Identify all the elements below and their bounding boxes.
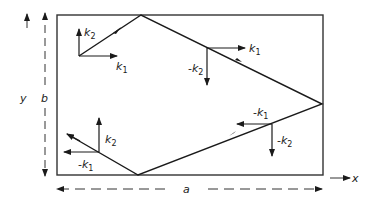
ray-direction-arrow xyxy=(113,27,121,34)
k1-label-top-left: k1 xyxy=(116,60,127,75)
a-label: a xyxy=(183,183,190,196)
vector-set-upper-right xyxy=(207,48,245,85)
vector-set-lower-right xyxy=(237,124,272,156)
b-label: b xyxy=(41,92,48,105)
neg-k2-label-lower-right: -k2 xyxy=(277,134,292,149)
incident-arrow xyxy=(67,134,80,141)
neg-k1-label-lower-right: -k1 xyxy=(253,106,268,121)
k2-label-lower-left: k2 xyxy=(105,133,116,148)
ray-direction-arrow xyxy=(229,131,236,136)
x-label: x xyxy=(351,172,359,185)
k2-label-top-left: k2 xyxy=(84,26,95,41)
y-label: y xyxy=(19,92,27,105)
k1-label-upper-right: k1 xyxy=(249,42,260,57)
neg-k1-label-lower-left: -k1 xyxy=(78,158,93,173)
waveguide-diagram: y b a x k2 k1 k1 -k2 -k1 -k2 k2 -k1 xyxy=(0,0,373,205)
ray-path xyxy=(67,15,322,175)
neg-k2-label-upper-right: -k2 xyxy=(188,62,203,77)
